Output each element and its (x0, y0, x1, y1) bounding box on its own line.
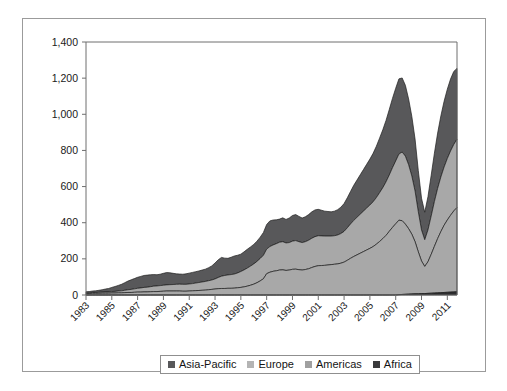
legend-item-africa[interactable]: Africa (373, 359, 412, 370)
x-tick-label: 1983 (68, 299, 92, 323)
chart-outer-frame: 02004006008001,0001,2001,400 19831985198… (22, 18, 486, 372)
legend-label: Americas (316, 359, 362, 370)
x-tick-label: 1999 (274, 299, 298, 323)
y-tick-label: 400 (60, 216, 78, 228)
x-tick-label: 1989 (145, 299, 169, 323)
y-tick-label: 200 (60, 252, 78, 264)
y-tick-label: 0 (72, 289, 78, 301)
plot-area (86, 68, 457, 295)
x-tick-label: 1985 (94, 299, 118, 323)
x-tick-label: 2005 (352, 299, 376, 323)
chart-legend[interactable]: Asia-PacificEuropeAmericasAfrica (160, 355, 420, 374)
legend-swatch-icon (305, 361, 312, 368)
legend-label: Asia-Pacific (179, 359, 236, 370)
y-axis-ticks: 02004006008001,0001,2001,400 (52, 36, 86, 301)
legend-swatch-icon (247, 361, 254, 368)
x-tick-label: 1987 (120, 299, 144, 323)
x-tick-label: 1995 (223, 299, 247, 323)
x-tick-label: 2007 (378, 299, 402, 323)
x-tick-label: 1991 (171, 299, 195, 323)
y-tick-label: 1,000 (52, 108, 78, 120)
x-axis-ticks: 1983198519871989199119931995199719992001… (68, 295, 453, 323)
x-tick-label: 2011 (430, 299, 453, 322)
stacked-area-chart[interactable]: 02004006008001,0001,2001,400 19831985198… (23, 19, 485, 371)
legend-item-europe[interactable]: Europe (247, 359, 293, 370)
y-tick-label: 600 (60, 180, 78, 192)
y-tick-label: 1,400 (52, 36, 78, 48)
figure-container: 02004006008001,0001,2001,400 19831985198… (0, 0, 507, 391)
legend-label: Europe (258, 359, 293, 370)
y-tick-label: 1,200 (52, 72, 78, 84)
x-tick-label: 2001 (300, 299, 324, 323)
legend-label: Africa (384, 359, 412, 370)
y-tick-label: 800 (60, 144, 78, 156)
legend-swatch-icon (168, 361, 175, 368)
x-tick-label: 2009 (403, 299, 427, 323)
legend-swatch-icon (373, 361, 380, 368)
x-tick-label: 2003 (326, 299, 350, 323)
legend-item-americas[interactable]: Americas (305, 359, 362, 370)
x-tick-label: 1997 (249, 299, 273, 323)
x-tick-label: 1993 (197, 299, 221, 323)
legend-item-asia-pacific[interactable]: Asia-Pacific (168, 359, 236, 370)
